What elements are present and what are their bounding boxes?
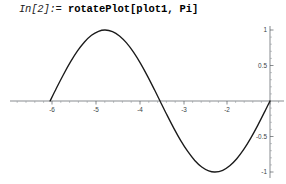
y-tick-label: 0.5 (258, 62, 267, 69)
x-tick-label: -6 (49, 106, 55, 113)
input-expression-text[interactable]: rotatePlot[plot1, Pi] (68, 3, 198, 15)
x-tick-label: -4 (137, 106, 143, 113)
input-prompt-label: In[2]:= (19, 3, 62, 15)
y-tick-label: -1 (261, 168, 267, 175)
y-tick-label: 1 (263, 26, 267, 33)
mathematica-notebook-screenshot: In[2]:= rotatePlot[plot1, Pi] (0, 0, 286, 184)
y-tick-label: -0.5 (256, 133, 267, 140)
output-plot-cell: -6 -5 -4 -3 -2 1 0.5 -0.5 -1 (0, 18, 286, 184)
x-tick-label: -5 (93, 106, 99, 113)
input-cell[interactable]: In[2]:= rotatePlot[plot1, Pi] (0, 0, 286, 20)
sine-plot-graphic: -6 -5 -4 -3 -2 1 0.5 -0.5 -1 (0, 18, 286, 184)
x-tick-label: -3 (181, 106, 187, 113)
x-tick-labels: -6 -5 -4 -3 -2 (49, 106, 230, 113)
x-tick-label: -2 (224, 106, 230, 113)
